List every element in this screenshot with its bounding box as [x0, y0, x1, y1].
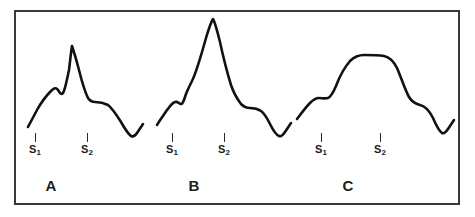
marker-label-s1: S1	[15, 144, 55, 156]
marker-a-s2: S2	[67, 133, 107, 156]
marker-a-s1: S1	[15, 133, 55, 156]
tick-icon	[380, 133, 381, 142]
marker-c-s2: S2	[360, 133, 400, 156]
marker-c-s1: S1	[301, 133, 341, 156]
marker-b-s2: S2	[204, 133, 244, 156]
tick-icon	[87, 133, 88, 142]
marker-label-s2: S2	[360, 144, 400, 156]
phonocardiogram-figure: S1 S2 A S1 S2 B S1 S2 C	[0, 0, 475, 217]
marker-label-s1: S1	[301, 144, 341, 156]
panel-letter-c: C	[328, 178, 368, 193]
marker-label-s1: S1	[152, 144, 192, 156]
tick-icon	[172, 133, 173, 142]
marker-b-s1: S1	[152, 133, 192, 156]
tick-icon	[224, 133, 225, 142]
panel-letter-a: A	[31, 178, 71, 193]
tick-icon	[321, 133, 322, 142]
marker-label-s2: S2	[67, 144, 107, 156]
panel-letter-b: B	[174, 178, 214, 193]
marker-label-s2: S2	[204, 144, 244, 156]
figure-border-frame	[14, 10, 460, 205]
tick-icon	[35, 133, 36, 142]
